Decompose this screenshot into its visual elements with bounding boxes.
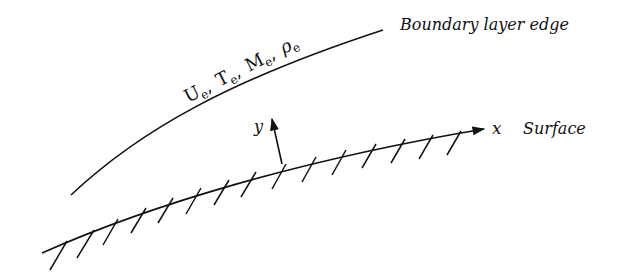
boundary-edge-label: Boundary layer edge [399,15,569,34]
surface-hatching [50,131,461,270]
x-axis-label: x [492,118,502,138]
edge-properties-label: Ue, Te, Me, ρe [180,31,302,109]
svg-text:Ue, Te, Me,: Ue, Te, Me, ρe [180,31,302,109]
boundary-layer-diagram: y x Surface Boundary layer edge Ue, Te, … [0,0,629,279]
surface-label: Surface [523,119,586,138]
y-axis-arrow [272,119,282,164]
boundary-layer-edge-curve [71,30,383,195]
y-axis-label: y [253,117,264,136]
